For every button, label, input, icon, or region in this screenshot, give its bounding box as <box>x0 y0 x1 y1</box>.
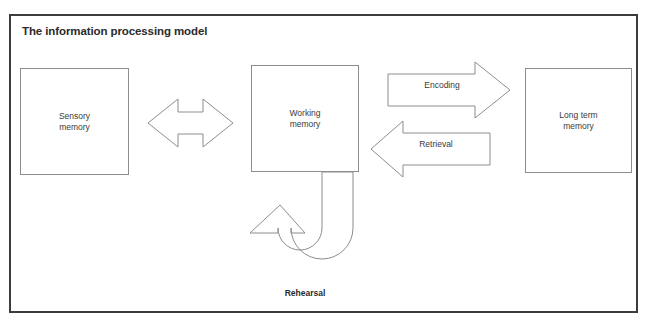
box-long-term-memory-label: Long term memory <box>559 110 597 132</box>
arrow-label-retrieval: Retrieval <box>400 139 472 149</box>
box-working-memory-label: Working memory <box>289 108 320 130</box>
box-working-memory: Working memory <box>251 65 359 172</box>
box-sensory-memory-label: Sensory memory <box>59 111 90 133</box>
box-long-term-memory: Long term memory <box>525 68 632 173</box>
arrow-label-rehearsal: Rehearsal <box>255 288 355 298</box>
figure-title: The information processing model <box>22 25 207 37</box>
information-processing-diagram: The information processing model Sensory… <box>0 0 651 330</box>
box-sensory-memory: Sensory memory <box>20 68 129 175</box>
arrow-label-encoding: Encoding <box>406 80 478 90</box>
